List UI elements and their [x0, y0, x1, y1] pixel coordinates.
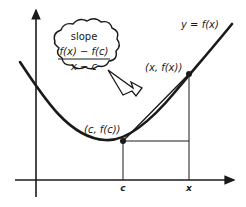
callout-arrow-icon	[108, 70, 142, 96]
point-c	[120, 138, 126, 144]
axis-tick-c: c	[120, 183, 126, 193]
secant-slope-diagram: slope f(x) − f(c) x − c y = f(x) (x, f(x…	[0, 0, 246, 207]
axis-tick-x: x	[185, 183, 193, 193]
slope-callout: slope f(x) − f(c) x − c	[54, 19, 142, 96]
curve-label: y = f(x)	[180, 19, 219, 30]
point-c-label: (c, f(c))	[84, 124, 120, 135]
point-x-label: (x, f(x))	[145, 62, 182, 73]
callout-heading: slope	[71, 31, 98, 42]
diagram-canvas: slope f(x) − f(c) x − c y = f(x) (x, f(x…	[0, 0, 246, 207]
function-curve	[20, 24, 232, 140]
callout-numerator: f(x) − f(c)	[60, 46, 109, 57]
callout-denominator: x − c	[70, 61, 98, 72]
point-x	[186, 71, 192, 77]
